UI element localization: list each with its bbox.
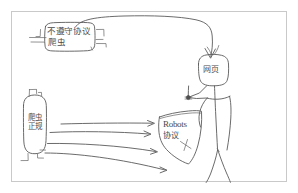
figure-person [199,86,231,183]
edge-noncompliant-to-webpage [76,16,216,58]
label-robots: Robots [163,120,187,129]
edge-crawler-to-shield-2 [50,131,151,137]
edge-crawler-to-shield-3 [48,143,158,154]
label-legit-crawler: 爬虫正规 [27,113,43,132]
edge-webpage-to-shield [185,86,208,100]
diagram-canvas: 不遵守协议 爬虫 网页 爬虫正规 Robots 协议 [0,0,298,193]
edge-crawler-to-shield-1 [61,121,155,127]
label-webpage: 网页 [203,66,218,74]
label-noncompliant-crawler-line1: 不遵守协议 [47,27,91,36]
label-robots-protocol: 协议 [163,132,178,140]
edge-crawler-to-shield-4 [45,153,167,173]
label-noncompliant-crawler-line2: 爬虫 [48,38,65,47]
diagram-sketch [0,0,298,193]
